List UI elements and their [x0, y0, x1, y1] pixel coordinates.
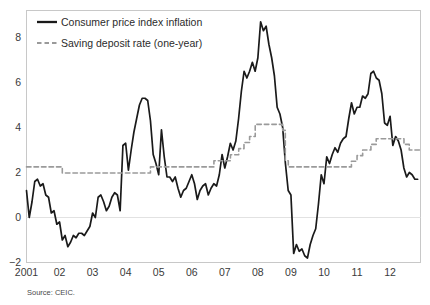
x-tick-08: 08	[252, 266, 264, 278]
x-tick-09: 09	[285, 266, 297, 278]
x-tick-2001: 2001	[15, 266, 39, 278]
x-tick-12: 12	[384, 266, 396, 278]
x-tick-07: 07	[219, 266, 231, 278]
y-tick-2: 2	[15, 166, 21, 178]
chart-container: −202468 20010203040506070809101112 Consu…	[0, 0, 430, 305]
y-tick-8: 8	[15, 31, 21, 43]
x-tick-06: 06	[186, 266, 198, 278]
legend-label-deposit: Saving deposit rate (one-year)	[61, 37, 202, 49]
y-tick-6: 6	[15, 76, 21, 88]
x-tick-10: 10	[318, 266, 330, 278]
x-tick-02: 02	[54, 266, 66, 278]
x-tick-05: 05	[153, 266, 165, 278]
x-tick-11: 11	[352, 266, 363, 278]
source-note: Source: CEIC.	[27, 288, 75, 297]
y-tick-0: 0	[15, 211, 21, 223]
legend-label-cpi: Consumer price index inflation	[61, 16, 202, 28]
x-tick-04: 04	[120, 266, 132, 278]
y-tick-4: 4	[15, 121, 21, 133]
line-chart: −202468 20010203040506070809101112 Consu…	[0, 0, 430, 305]
x-tick-03: 03	[87, 266, 99, 278]
